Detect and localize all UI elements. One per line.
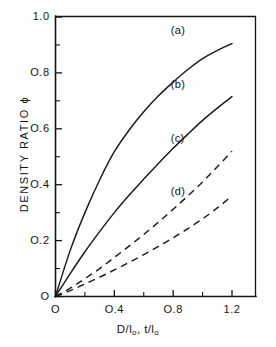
curve-c (56, 151, 233, 296)
plot-frame (55, 16, 256, 297)
x-axis-title-sub2: o (154, 328, 159, 337)
x-tick-label-4: O.8 (153, 303, 193, 315)
x-tick-label-6: 1.2 (212, 303, 252, 315)
y-tick-label-10: 1.0 (8, 10, 50, 22)
curve-a (56, 44, 233, 297)
curve-label-b: (b) (171, 78, 185, 90)
data-curves (56, 44, 233, 297)
curve-label-c: (c) (171, 132, 185, 144)
curve-label-a: (a) (171, 24, 185, 36)
x-axis-title-part2: , t/l (137, 323, 154, 335)
x-tick-label-2: O.4 (94, 303, 134, 315)
x-axis-title-part1: D/l (117, 323, 132, 335)
y-tick-label-0: O (8, 290, 50, 302)
x-axis-title: D/lo, t/lo (0, 323, 276, 335)
y-axis-title: DENSITY RATIO ϕ (18, 54, 30, 254)
x-axis-title-sub1: o (132, 328, 137, 337)
chart-figure: OO.4O.81.2OO.2O.4O.6O.81.0 DENSITY RATIO… (0, 0, 276, 347)
x-tick-label-0: O (36, 303, 76, 315)
curve-b (56, 97, 233, 297)
curve-label-d: (d) (171, 185, 185, 197)
